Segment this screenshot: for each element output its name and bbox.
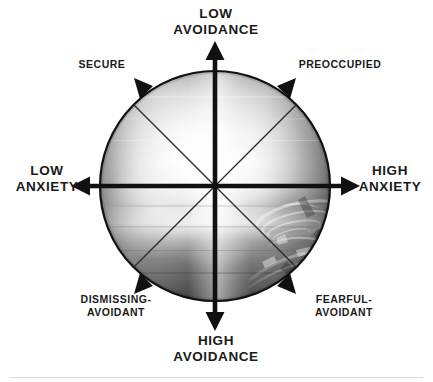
bottom-divider bbox=[10, 377, 423, 378]
quadrant-label-preoccupied: PREOCCUPIED bbox=[288, 58, 392, 71]
attachment-styles-diagram: LOW AVOIDANCE HIGH AVOIDANCE LOW ANXIETY… bbox=[0, 0, 433, 382]
axis-label-low-avoidance: LOW AVOIDANCE bbox=[160, 6, 272, 37]
axis-label-high-anxiety: HIGH ANXIETY bbox=[350, 163, 430, 194]
axis-label-low-anxiety: LOW ANXIETY bbox=[8, 163, 86, 194]
quadrant-label-fearful-avoidant: FEARFUL- AVOIDANT bbox=[292, 293, 396, 318]
quadrant-label-secure: SECURE bbox=[62, 58, 142, 71]
quadrant-label-dismissing-avoidant: DISMISSING- AVOIDANT bbox=[57, 293, 175, 318]
axis-label-high-avoidance: HIGH AVOIDANCE bbox=[160, 333, 272, 364]
arrow-up-icon bbox=[206, 41, 225, 60]
arrow-down-icon bbox=[206, 312, 225, 331]
